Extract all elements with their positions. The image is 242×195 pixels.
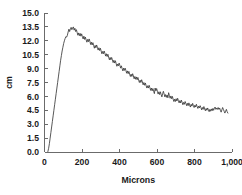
x-tick-label: 0	[42, 157, 47, 167]
x-axis-tick-labels: 02004006008001,000	[42, 157, 242, 167]
y-tick-label: 12.0	[22, 36, 39, 46]
x-axis-title: Microns	[121, 175, 155, 185]
x-tick-label: 1,000	[221, 157, 242, 167]
x-tick-label: 800	[187, 157, 202, 167]
y-tick-label: 10.5	[22, 50, 39, 60]
y-tick-label: 1.5	[27, 133, 39, 143]
x-tick-label: 600	[150, 157, 165, 167]
y-tick-label: 6.0	[27, 92, 39, 102]
y-axis-tick-labels: 0.01.53.04.56.07.59.010.512.013.515.0	[22, 8, 39, 157]
y-tick-label: 7.5	[27, 78, 39, 88]
line-chart: 0.01.53.04.56.07.59.010.512.013.515.0 02…	[0, 0, 242, 195]
y-tick-label: 9.0	[27, 64, 39, 74]
x-tick-label: 200	[75, 157, 90, 167]
y-tick-label: 3.0	[27, 119, 39, 129]
y-tick-label: 0.0	[27, 147, 39, 157]
y-tick-label: 15.0	[22, 8, 39, 18]
x-tick-label: 400	[112, 157, 127, 167]
y-axis-title: cm	[4, 76, 14, 89]
y-tick-label: 13.5	[22, 22, 39, 32]
data-series-line	[48, 27, 228, 152]
chart-figure: 0.01.53.04.56.07.59.010.512.013.515.0 02…	[0, 0, 242, 195]
y-tick-label: 4.5	[27, 105, 39, 115]
